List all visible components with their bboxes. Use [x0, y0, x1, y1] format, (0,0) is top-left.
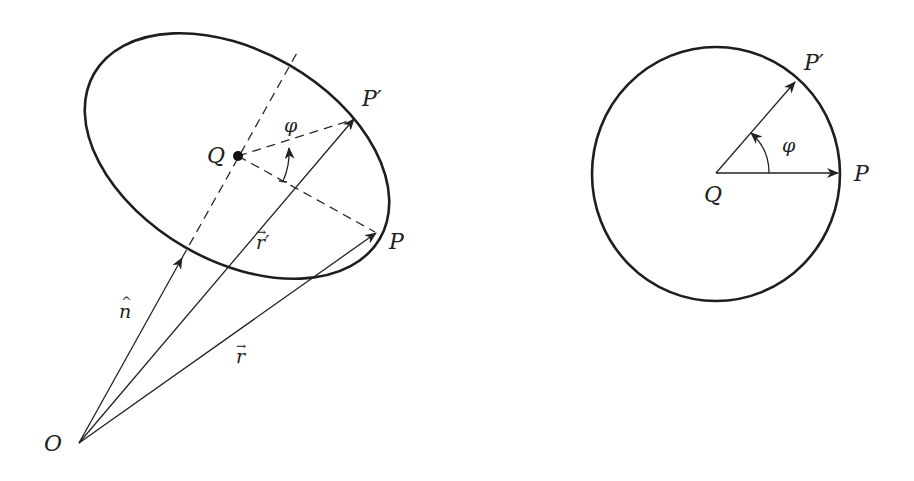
label-phi: φ — [782, 134, 796, 156]
q-to-p-prime-vector — [716, 82, 795, 173]
phi-arc-tick — [279, 181, 287, 182]
rotation-circle — [592, 47, 840, 301]
q-to-p-dashed — [238, 156, 375, 232]
label-p-prime: P′ — [803, 50, 824, 75]
vector-arrow-icon: → — [256, 225, 266, 239]
label-p: P — [388, 229, 405, 254]
label-n-hat: n ^ — [119, 294, 132, 322]
r-vector — [79, 233, 376, 443]
label-p: P — [853, 161, 870, 186]
phi-angle-arc — [283, 148, 289, 181]
label-p-prime: P′ — [361, 86, 382, 111]
label-q: Q — [704, 182, 722, 207]
label-r: r → — [236, 339, 247, 367]
label-r-prime: r′ → — [256, 225, 270, 253]
label-o: O — [44, 431, 62, 456]
vector-arrow-icon: → — [236, 339, 246, 353]
n-hat-vector — [79, 258, 182, 443]
phi-angle-arc — [751, 133, 769, 173]
hat-icon: ^ — [121, 294, 132, 309]
label-phi: φ — [284, 114, 298, 136]
rotation-ellipse — [42, 0, 433, 329]
right-figure: Q P′ P φ — [592, 47, 870, 301]
left-figure: Q P′ P φ r′ → r → n ^ O — [42, 0, 433, 456]
q-point — [233, 151, 243, 161]
rotation-diagram: Q P′ P φ r′ → r → n ^ O Q P′ P φ — [0, 0, 914, 481]
label-q: Q — [207, 143, 225, 168]
